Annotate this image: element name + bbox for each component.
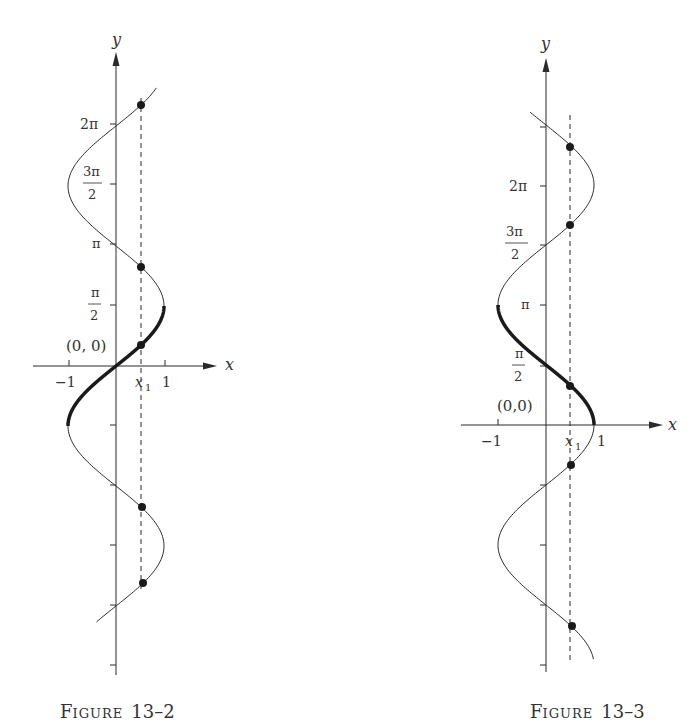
marked-points bbox=[137, 101, 147, 587]
x-tick-label-x1: x bbox=[565, 433, 573, 449]
x-tick-label-x1-sub: 1 bbox=[145, 382, 151, 393]
figure-13-3: y x −1 x 1 1 2π 3π 2 π π 2 (0, bbox=[461, 34, 677, 722]
x-axis-arrow-icon bbox=[649, 422, 663, 429]
y-axis-label: y bbox=[111, 30, 122, 49]
y-axis-label: y bbox=[540, 34, 551, 53]
origin-label: (0, 0) bbox=[66, 337, 106, 355]
x-tick-label-x1: x bbox=[135, 374, 143, 390]
y-ticks bbox=[540, 127, 546, 665]
figures-canvas: y x −1 x 1 1 2π 3π 2 π π 2 bbox=[0, 0, 698, 725]
x-axis-label: x bbox=[225, 355, 234, 374]
y-tick-label-3pi2-den: 2 bbox=[88, 187, 96, 202]
y-axis-arrow-icon bbox=[543, 58, 550, 72]
y-tick-label-3pi2-den: 2 bbox=[511, 247, 519, 262]
y-tick-label-pi2-den: 2 bbox=[90, 308, 98, 323]
x-tick-label-pos1: 1 bbox=[162, 374, 171, 390]
y-tick-label-pi: π bbox=[521, 297, 530, 312]
x-axis-label: x bbox=[668, 415, 677, 434]
y-tick-label-pi2-num: π bbox=[91, 285, 100, 300]
x-axis-arrow-icon bbox=[203, 363, 217, 370]
y-tick-label-3pi2-num: 3π bbox=[83, 164, 100, 179]
x-tick-label-neg1: −1 bbox=[55, 374, 76, 390]
y-tick-label-pi: π bbox=[92, 236, 101, 251]
y-tick-label-2pi: 2π bbox=[80, 116, 98, 132]
x-tick-label-pos1: 1 bbox=[597, 433, 606, 449]
y-tick-label-pi2-num: π bbox=[515, 346, 524, 361]
x-tick-label-x1-sub: 1 bbox=[575, 441, 581, 452]
y-axis-arrow-icon bbox=[113, 52, 120, 66]
marked-points bbox=[566, 143, 576, 630]
figure-13-2: y x −1 x 1 1 2π 3π 2 π π 2 bbox=[33, 30, 234, 722]
y-tick-label-2pi: 2π bbox=[509, 178, 527, 194]
x-tick-label-neg1: −1 bbox=[481, 433, 502, 449]
origin-label: (0,0) bbox=[497, 397, 533, 415]
figure-caption: FIGURE13–3 bbox=[530, 701, 645, 722]
figure-caption: FIGURE13–2 bbox=[60, 701, 175, 722]
y-tick-label-3pi2-num: 3π bbox=[506, 224, 523, 239]
y-tick-label-pi2-den: 2 bbox=[514, 369, 522, 384]
y-ticks bbox=[110, 124, 116, 665]
